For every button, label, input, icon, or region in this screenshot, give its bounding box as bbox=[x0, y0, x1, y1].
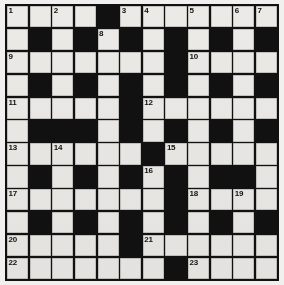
crossword-letter-cell[interactable] bbox=[233, 212, 254, 233]
crossword-letter-cell[interactable] bbox=[256, 52, 277, 73]
crossword-letter-cell[interactable]: 20 bbox=[7, 235, 28, 256]
crossword-letter-cell[interactable] bbox=[98, 166, 119, 187]
crossword-letter-cell[interactable] bbox=[188, 120, 209, 141]
crossword-letter-cell[interactable] bbox=[256, 189, 277, 210]
crossword-letter-cell[interactable] bbox=[30, 258, 51, 279]
crossword-letter-cell[interactable] bbox=[188, 212, 209, 233]
crossword-letter-cell[interactable] bbox=[52, 235, 73, 256]
crossword-letter-cell[interactable]: 5 bbox=[188, 6, 209, 27]
crossword-letter-cell[interactable] bbox=[120, 189, 141, 210]
crossword-letter-cell[interactable] bbox=[211, 143, 232, 164]
crossword-letter-cell[interactable] bbox=[233, 143, 254, 164]
crossword-letter-cell[interactable] bbox=[52, 212, 73, 233]
crossword-letter-cell[interactable] bbox=[256, 98, 277, 119]
crossword-letter-cell[interactable] bbox=[52, 52, 73, 73]
crossword-letter-cell[interactable]: 23 bbox=[188, 258, 209, 279]
crossword-letter-cell[interactable] bbox=[7, 29, 28, 50]
crossword-letter-cell[interactable] bbox=[98, 120, 119, 141]
crossword-letter-cell[interactable]: 9 bbox=[7, 52, 28, 73]
crossword-letter-cell[interactable] bbox=[211, 258, 232, 279]
crossword-letter-cell[interactable]: 19 bbox=[233, 189, 254, 210]
crossword-letter-cell[interactable] bbox=[75, 235, 96, 256]
crossword-letter-cell[interactable] bbox=[188, 29, 209, 50]
crossword-letter-cell[interactable] bbox=[188, 235, 209, 256]
crossword-letter-cell[interactable]: 3 bbox=[120, 6, 141, 27]
crossword-letter-cell[interactable] bbox=[75, 98, 96, 119]
crossword-letter-cell[interactable] bbox=[211, 98, 232, 119]
crossword-letter-cell[interactable] bbox=[120, 52, 141, 73]
crossword-letter-cell[interactable] bbox=[188, 166, 209, 187]
crossword-letter-cell[interactable]: 21 bbox=[143, 235, 164, 256]
crossword-letter-cell[interactable] bbox=[211, 6, 232, 27]
crossword-letter-cell[interactable] bbox=[30, 98, 51, 119]
crossword-letter-cell[interactable] bbox=[30, 235, 51, 256]
crossword-letter-cell[interactable]: 18 bbox=[188, 189, 209, 210]
crossword-letter-cell[interactable] bbox=[30, 189, 51, 210]
crossword-letter-cell[interactable]: 1 bbox=[7, 6, 28, 27]
crossword-grid[interactable]: 1234567891011121314151617181920212223 bbox=[7, 6, 277, 279]
crossword-letter-cell[interactable] bbox=[30, 6, 51, 27]
crossword-letter-cell[interactable] bbox=[120, 258, 141, 279]
crossword-letter-cell[interactable] bbox=[98, 98, 119, 119]
crossword-letter-cell[interactable] bbox=[75, 189, 96, 210]
crossword-letter-cell[interactable] bbox=[188, 143, 209, 164]
crossword-letter-cell[interactable]: 16 bbox=[143, 166, 164, 187]
crossword-letter-cell[interactable] bbox=[52, 258, 73, 279]
crossword-letter-cell[interactable] bbox=[98, 258, 119, 279]
crossword-letter-cell[interactable] bbox=[233, 98, 254, 119]
crossword-letter-cell[interactable]: 6 bbox=[233, 6, 254, 27]
crossword-letter-cell[interactable]: 7 bbox=[256, 6, 277, 27]
crossword-letter-cell[interactable] bbox=[165, 98, 186, 119]
crossword-letter-cell[interactable] bbox=[165, 235, 186, 256]
crossword-letter-cell[interactable] bbox=[256, 235, 277, 256]
crossword-letter-cell[interactable]: 11 bbox=[7, 98, 28, 119]
crossword-letter-cell[interactable]: 22 bbox=[7, 258, 28, 279]
crossword-letter-cell[interactable] bbox=[98, 212, 119, 233]
crossword-letter-cell[interactable] bbox=[256, 166, 277, 187]
crossword-letter-cell[interactable] bbox=[143, 258, 164, 279]
crossword-letter-cell[interactable] bbox=[211, 189, 232, 210]
crossword-letter-cell[interactable] bbox=[75, 52, 96, 73]
crossword-letter-cell[interactable]: 17 bbox=[7, 189, 28, 210]
crossword-letter-cell[interactable] bbox=[7, 212, 28, 233]
crossword-letter-cell[interactable] bbox=[256, 143, 277, 164]
crossword-letter-cell[interactable] bbox=[143, 52, 164, 73]
crossword-letter-cell[interactable] bbox=[233, 29, 254, 50]
crossword-letter-cell[interactable] bbox=[7, 75, 28, 96]
crossword-letter-cell[interactable] bbox=[7, 166, 28, 187]
crossword-letter-cell[interactable] bbox=[143, 75, 164, 96]
crossword-letter-cell[interactable] bbox=[75, 258, 96, 279]
crossword-letter-cell[interactable] bbox=[211, 235, 232, 256]
crossword-letter-cell[interactable] bbox=[7, 120, 28, 141]
crossword-letter-cell[interactable] bbox=[52, 98, 73, 119]
crossword-letter-cell[interactable] bbox=[30, 52, 51, 73]
crossword-letter-cell[interactable] bbox=[233, 75, 254, 96]
crossword-letter-cell[interactable] bbox=[143, 29, 164, 50]
crossword-letter-cell[interactable] bbox=[143, 120, 164, 141]
crossword-letter-cell[interactable] bbox=[120, 143, 141, 164]
crossword-letter-cell[interactable] bbox=[98, 143, 119, 164]
crossword-letter-cell[interactable] bbox=[233, 120, 254, 141]
crossword-letter-cell[interactable]: 12 bbox=[143, 98, 164, 119]
crossword-letter-cell[interactable] bbox=[52, 166, 73, 187]
crossword-letter-cell[interactable] bbox=[188, 98, 209, 119]
crossword-letter-cell[interactable] bbox=[211, 52, 232, 73]
crossword-letter-cell[interactable] bbox=[233, 52, 254, 73]
crossword-letter-cell[interactable] bbox=[233, 258, 254, 279]
crossword-letter-cell[interactable] bbox=[256, 258, 277, 279]
crossword-letter-cell[interactable] bbox=[98, 235, 119, 256]
crossword-letter-cell[interactable] bbox=[233, 235, 254, 256]
crossword-letter-cell[interactable] bbox=[52, 75, 73, 96]
crossword-letter-cell[interactable]: 4 bbox=[143, 6, 164, 27]
crossword-letter-cell[interactable] bbox=[98, 189, 119, 210]
crossword-letter-cell[interactable]: 15 bbox=[165, 143, 186, 164]
crossword-letter-cell[interactable] bbox=[98, 52, 119, 73]
crossword-letter-cell[interactable]: 14 bbox=[52, 143, 73, 164]
crossword-letter-cell[interactable] bbox=[75, 143, 96, 164]
crossword-letter-cell[interactable]: 10 bbox=[188, 52, 209, 73]
crossword-letter-cell[interactable] bbox=[165, 6, 186, 27]
crossword-letter-cell[interactable] bbox=[75, 6, 96, 27]
crossword-letter-cell[interactable] bbox=[52, 189, 73, 210]
crossword-letter-cell[interactable] bbox=[143, 189, 164, 210]
crossword-letter-cell[interactable] bbox=[30, 143, 51, 164]
